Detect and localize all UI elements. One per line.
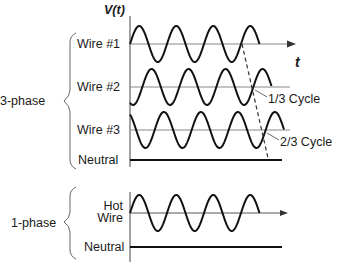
three-phase-label: 3-phase — [0, 94, 45, 108]
two-thirds-leader — [267, 133, 279, 140]
two-thirds-cycle-label: 2/3 Cycle — [280, 135, 332, 149]
hot-wire-arrowhead — [280, 210, 288, 216]
y-axis-label: V(t) — [104, 3, 125, 17]
one-phase-label: 1-phase — [11, 216, 56, 230]
three-phase-brace — [64, 33, 76, 169]
phase-shift-dashed-line — [242, 44, 268, 158]
neutral-3phase-label: Neutral — [78, 153, 118, 167]
wire2-label: Wire #2 — [77, 80, 120, 94]
three-phase-vs-single-phase-diagram: V(t) t 3-phase Wire #1 Wire #2 Wire #3 N… — [0, 0, 344, 272]
x-axis-label: t — [295, 55, 300, 69]
wire3-label: Wire #3 — [77, 123, 120, 137]
wire-label: Wire — [90, 211, 123, 225]
one-third-cycle-label: 1/3 Cycle — [268, 92, 320, 106]
one-phase-brace — [64, 187, 76, 259]
neutral-1phase-label: Neutral — [84, 240, 124, 254]
one-third-leader — [255, 90, 267, 97]
t-axis-arrowhead — [287, 41, 296, 48]
wire1-label: Wire #1 — [77, 37, 120, 51]
